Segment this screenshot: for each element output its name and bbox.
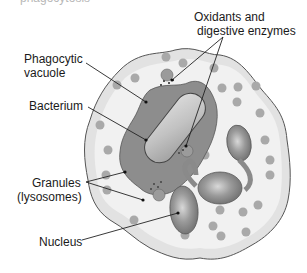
label-granules-line1: Granules xyxy=(32,176,81,190)
label-nucleus: Nucleus xyxy=(39,235,82,249)
label-granules-line2: (lysosomes) xyxy=(17,190,82,204)
label-vacuole-line1: Phagocytic xyxy=(24,52,83,66)
label-oxidants-line2: digestive enzymes xyxy=(197,24,296,38)
label-bacterium: Bacterium xyxy=(29,99,83,113)
phagocytosis-diagram xyxy=(0,0,307,273)
label-vacuole-line2: vacuole xyxy=(24,66,65,80)
label-oxidants-line1: Oxidants and xyxy=(194,10,265,24)
